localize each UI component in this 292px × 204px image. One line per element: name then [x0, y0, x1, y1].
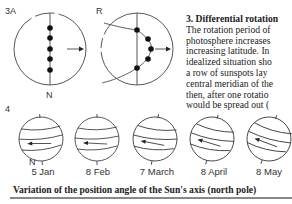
figure-4-label: 4 [5, 104, 10, 114]
text-line: central meridian of the [186, 79, 292, 90]
sun-disk [73, 110, 123, 168]
sun-disk [17, 110, 67, 168]
date-label: 5 Jan [16, 166, 70, 177]
rotation-arrow-icon [83, 141, 88, 145]
date-label: 8 Feb [71, 166, 125, 177]
sun-disk [188, 110, 238, 168]
rotation-arrow-icon [140, 139, 146, 144]
date-label: 8 May [242, 166, 292, 177]
differential-rotation-text: 3. Differential rotation The rotation pe… [186, 14, 292, 111]
rotation-arrow-icon [254, 137, 260, 142]
figure-3a-north-label: N [46, 90, 53, 100]
date-label: 8 April [187, 166, 241, 177]
sun-disk [245, 110, 292, 168]
rotation-arrow-icon [27, 141, 32, 145]
divider [10, 197, 292, 199]
text-line: The rotation period of [186, 25, 292, 36]
rotation-arrow-icon [197, 138, 203, 143]
date-label: 7 March [130, 166, 184, 177]
rotation-arrow-icon [67, 47, 84, 52]
figure-3r-sun-diagram [100, 12, 176, 88]
figure-3a-sun-diagram [13, 12, 89, 88]
sun-disk [131, 110, 181, 168]
figure-caption: Variation of the position angle of the S… [13, 184, 256, 195]
rotation-arrow-icon [155, 47, 171, 52]
